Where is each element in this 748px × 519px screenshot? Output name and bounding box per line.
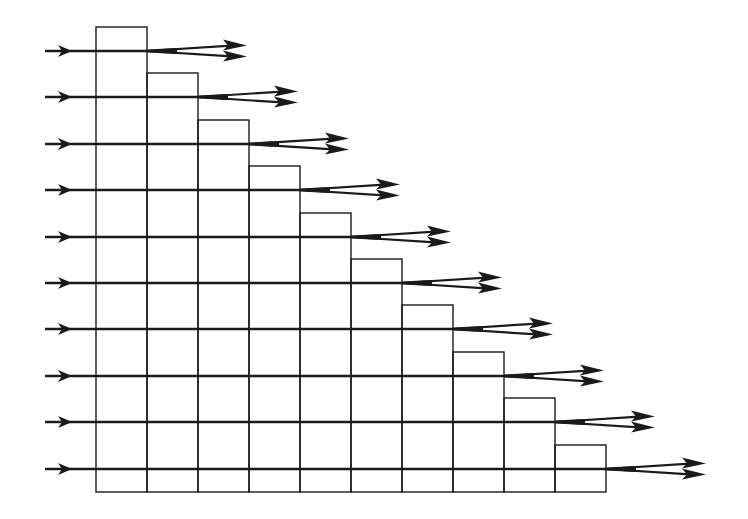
split-wedge: [249, 141, 279, 147]
column-bar: [198, 120, 249, 492]
split-wedge: [453, 326, 483, 332]
output-arrows: [147, 40, 706, 480]
split-wedge: [402, 280, 432, 286]
split-wedge: [606, 466, 636, 472]
split-wedge: [198, 94, 228, 100]
column-bar: [504, 398, 555, 492]
column-bar: [300, 213, 351, 492]
split-wedge: [300, 187, 330, 193]
column-bar: [402, 305, 453, 492]
split-wedge: [147, 48, 177, 54]
staircase-diagram: [0, 0, 748, 519]
split-wedge: [504, 373, 534, 379]
input-arrows: [45, 45, 96, 475]
split-wedge: [555, 419, 585, 425]
split-wedge: [351, 234, 381, 240]
